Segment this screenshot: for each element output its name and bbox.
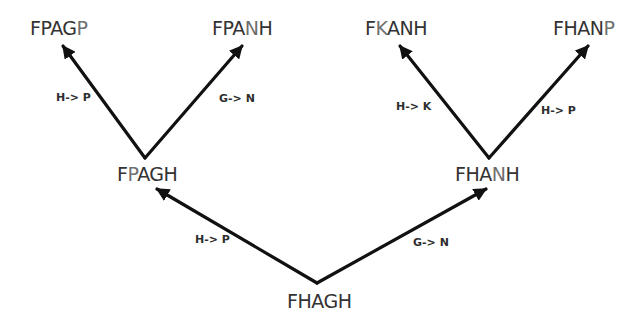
edge-label-left-to-lr: G-> N: [219, 92, 255, 105]
sequence-letter: A: [50, 17, 62, 39]
sequence-letter: F: [212, 17, 222, 39]
sequence-letter: H: [297, 290, 311, 312]
node-lr: FPANH: [212, 17, 272, 39]
node-rl: FKANH: [365, 17, 427, 39]
sequence-letter: G: [62, 17, 76, 39]
sequence-letter: P: [40, 17, 50, 39]
sequence-letter: F: [365, 17, 375, 39]
sequence-letter: A: [387, 17, 400, 39]
sequence-letter: P: [222, 17, 232, 39]
edge-label-root-to-left: H-> P: [195, 233, 230, 246]
sequence-letter: F: [455, 163, 465, 185]
mutated-letter: P: [77, 17, 88, 39]
node-right: FHANH: [455, 163, 519, 185]
sequence-letter: H: [258, 17, 272, 39]
edge-label-left-to-ll: H-> P: [56, 91, 91, 104]
mutated-letter: K: [375, 17, 387, 39]
edge-label-right-to-rr: H-> P: [541, 104, 576, 117]
sequence-letter: N: [590, 17, 604, 39]
edge-label-root-to-right: G-> N: [413, 236, 449, 249]
sequence-letter: A: [232, 17, 245, 39]
sequence-letter: F: [30, 17, 40, 39]
node-rr: FHANP: [553, 17, 614, 39]
arrow-right-to-rr: [489, 46, 588, 158]
sequence-letter: H: [338, 290, 352, 312]
sequence-letter: N: [400, 17, 414, 39]
mutated-letter: P: [127, 163, 137, 185]
sequence-letter: H: [465, 163, 479, 185]
sequence-letter: A: [311, 290, 323, 312]
node-left: FPAGH: [117, 163, 177, 185]
node-root: FHAGH: [287, 290, 351, 312]
sequence-letter: A: [577, 17, 590, 39]
arrow-root-to-right: [317, 189, 486, 283]
edge-label-right-to-rl: H-> K: [396, 100, 431, 113]
arrow-root-to-left: [157, 189, 317, 283]
sequence-letter: G: [149, 163, 163, 185]
sequence-letter: F: [117, 163, 127, 185]
sequence-letter: H: [563, 17, 577, 39]
sequence-letter: H: [505, 163, 519, 185]
sequence-letter: F: [553, 17, 563, 39]
mutated-letter: N: [245, 17, 259, 39]
diagram-canvas: [0, 0, 644, 321]
mutated-letter: N: [492, 163, 506, 185]
node-ll: FPAGP: [30, 17, 88, 39]
sequence-letter: G: [323, 290, 337, 312]
sequence-letter: H: [413, 17, 427, 39]
sequence-letter: H: [164, 163, 178, 185]
mutated-letter: P: [603, 17, 614, 39]
sequence-letter: A: [479, 163, 492, 185]
sequence-letter: F: [287, 290, 297, 312]
sequence-letter: A: [137, 163, 149, 185]
